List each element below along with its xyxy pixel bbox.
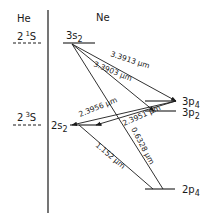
energy-level-diagram: He Ne 21S 23S 3s2 3p4 3p2 2s2 2p4 3.3913… — [0, 0, 213, 222]
ne-level-2s2: 2s2 — [51, 120, 102, 134]
svg-text:1.152 μm: 1.152 μm — [94, 141, 127, 171]
ne-column-header: Ne — [96, 12, 110, 23]
svg-text:2s2: 2s2 — [51, 120, 68, 134]
svg-text:23S: 23S — [17, 111, 36, 123]
svg-text:21S: 21S — [17, 30, 36, 42]
ne-level-2p4: 2p4 — [145, 184, 200, 198]
svg-text:3s2: 3s2 — [66, 30, 83, 44]
ne-level-3s2: 3s2 — [63, 30, 95, 44]
svg-text:0.6328 μm: 0.6328 μm — [129, 126, 156, 166]
he-level-2-3S: 23S — [13, 111, 42, 125]
svg-text:2p4: 2p4 — [182, 184, 200, 198]
he-column-header: He — [17, 13, 31, 24]
he-level-2-1S: 21S — [13, 30, 42, 43]
